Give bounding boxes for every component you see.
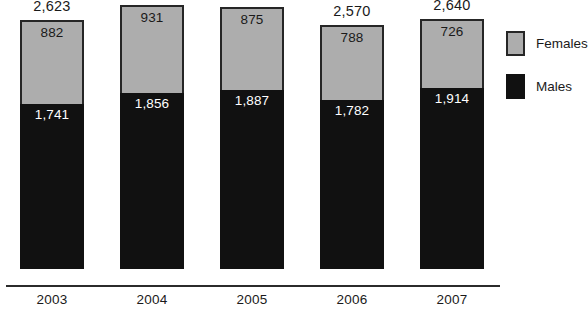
bar-total-label: 2,570 (320, 3, 384, 19)
bar-segment-label-males: 1,887 (235, 90, 269, 108)
bar-group-2006[interactable]: 2,570 788 1,782 (320, 25, 384, 269)
bar-segment-females[interactable]: 875 (220, 7, 284, 90)
legend-swatch-males-icon (506, 74, 525, 99)
bar-segment-males[interactable]: 1,782 (320, 100, 384, 269)
chart-legend: Females Males (506, 30, 583, 116)
bar-segment-females[interactable]: 882 (20, 20, 84, 104)
bar-segment-label-females: 931 (141, 7, 164, 25)
bar-group-2005[interactable]: 2,762 875 1,887 (220, 7, 284, 269)
x-axis-label-2004: 2004 (120, 292, 184, 307)
legend-swatch-females-icon (506, 31, 525, 56)
bar-segment-females[interactable]: 788 (320, 25, 384, 100)
bar-segment-label-males: 1,914 (435, 88, 469, 106)
bar-segment-males[interactable]: 1,914 (420, 88, 484, 269)
bar-segment-males[interactable]: 1,856 (120, 93, 184, 269)
legend-item-males[interactable]: Males (506, 73, 583, 99)
x-axis-label-2007: 2007 (420, 292, 484, 307)
bar-total-label: 2,623 (20, 0, 84, 14)
bar-segment-males[interactable]: 1,887 (220, 90, 284, 269)
bar-segment-label-males: 1,741 (35, 104, 69, 122)
bar-segment-females[interactable]: 726 (420, 19, 484, 88)
legend-item-females[interactable]: Females (506, 30, 583, 56)
bar-group-2007[interactable]: 2,640 726 1,914 (420, 19, 484, 269)
bar-segment-label-males: 1,782 (335, 100, 369, 118)
bar-segment-label-females: 882 (41, 22, 64, 40)
legend-label-males: Males (536, 79, 572, 94)
bar-group-2004[interactable]: 2,787 931 1,856 (120, 5, 184, 269)
bar-segment-males[interactable]: 1,741 (20, 104, 84, 269)
plot-area: 2,623 882 1,741 2003 2,787 931 1,856 200… (0, 0, 505, 300)
x-axis-label-2003: 2003 (20, 292, 84, 307)
x-axis-line (6, 285, 500, 287)
bar-total-label: 2,762 (220, 0, 284, 1)
bar-segment-label-males: 1,856 (135, 93, 169, 111)
bar-segment-label-females: 875 (241, 9, 264, 27)
bar-segment-label-females: 726 (441, 21, 464, 39)
x-axis-label-2005: 2005 (220, 292, 284, 307)
bar-segment-label-females: 788 (341, 27, 364, 45)
bar-group-2003[interactable]: 2,623 882 1,741 (20, 20, 84, 269)
legend-label-females: Females (536, 36, 588, 51)
bar-segment-females[interactable]: 931 (120, 5, 184, 93)
bar-total-label: 2,640 (420, 0, 484, 13)
x-axis-label-2006: 2006 (320, 292, 384, 307)
